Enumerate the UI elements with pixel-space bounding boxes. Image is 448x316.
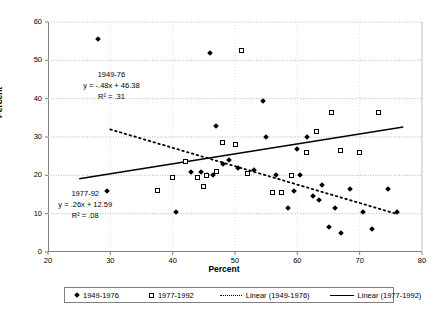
data-point [201,184,206,189]
y-axis-title: Percent [0,87,4,118]
y-tick-label: 20 [14,171,42,179]
chart-legend: 1949-1976 1977-1992 Linear (1949-1976) L… [64,287,394,303]
legend-label-linear-1949-1976: Linear (1949-1976) [246,291,310,300]
y-tick-label: 0 [14,248,42,256]
annotation-1949-76-r2: R² = .31 [83,91,139,102]
open-square-icon [149,293,154,298]
annotation-1977-92-equation: y = .26x + 12.59 [58,199,112,210]
data-point [376,110,381,115]
data-point [314,129,319,134]
data-point [245,171,250,176]
data-point [170,175,175,180]
legend-label-1977-1992: 1977-1992 [158,291,194,300]
dashed-line-icon [220,295,242,296]
x-axis-title: Percent [0,264,448,274]
annotation-1949-76: 1949-76 y = -.48x + 46.38 R² = .31 [83,69,139,102]
data-point [204,173,209,178]
filled-diamond-icon [74,292,80,298]
data-point [195,175,200,180]
legend-item-linear-1977-1992: Linear (1977-1992) [330,291,422,300]
legend-item-linear-1949-1976: Linear (1949-1976) [220,291,310,300]
y-tick-label: 50 [14,56,42,64]
y-tick-label: 10 [14,210,42,218]
annotation-1977-92-r2: R² = .08 [58,210,112,221]
data-point [155,188,160,193]
y-tick-label: 30 [14,133,42,141]
data-point [233,142,238,147]
legend-label-1949-1976: 1949-1976 [83,291,119,300]
legend-item-1949-1976: 1949-1976 [75,291,119,300]
annotation-1949-76-period: 1949-76 [83,69,139,80]
y-tick-label: 60 [14,18,42,26]
scatter-chart: 0102030405060 20304050607080 Percent Per… [0,0,448,316]
data-point [183,159,188,164]
data-point [329,110,334,115]
annotation-1949-76-equation: y = -.48x + 46.38 [83,80,139,91]
data-point [270,190,275,195]
data-point [357,150,362,155]
solid-line-icon [330,295,354,296]
data-point [289,173,294,178]
data-point [304,150,309,155]
annotation-1977-92: 1977-92 y = .26x + 12.59 R² = .08 [58,188,112,221]
data-point [220,140,225,145]
data-point [279,190,284,195]
data-point [214,169,219,174]
data-point [338,148,343,153]
legend-item-1977-1992: 1977-1992 [149,291,194,300]
y-tick-label: 40 [14,95,42,103]
annotation-1977-92-period: 1977-92 [58,188,112,199]
legend-label-linear-1977-1992: Linear (1977-1992) [358,291,422,300]
data-point [239,48,244,53]
